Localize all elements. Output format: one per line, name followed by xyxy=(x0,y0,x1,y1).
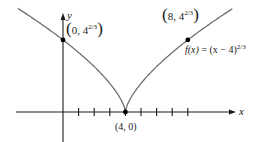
point-marker xyxy=(61,38,66,43)
function-lhs: f(x) xyxy=(185,44,199,55)
paren-close: ) xyxy=(97,19,103,38)
point-label-right: (8, 42/3) xyxy=(162,6,199,23)
point-exponent: 2/3 xyxy=(184,9,193,17)
y-axis-arrow-icon xyxy=(61,13,66,20)
marked-points xyxy=(61,38,191,115)
x-axis-label: x xyxy=(239,106,244,117)
function-curve xyxy=(18,8,233,112)
function-rhs: = (x − 4) xyxy=(199,44,237,55)
cusp-label: (4, 0) xyxy=(115,122,137,132)
point-marker xyxy=(123,110,128,115)
function-exponent: 2/3 xyxy=(237,43,246,51)
point-label-left: (0, 42/3) xyxy=(66,20,103,37)
function-label: f(x) = (x − 4)2/3 xyxy=(185,45,246,55)
point-marker xyxy=(185,38,190,43)
point-exponent: 2/3 xyxy=(88,23,97,31)
paren-close: ) xyxy=(193,5,199,24)
x-axis-arrow-icon xyxy=(229,110,236,115)
point-text: 8, 4 xyxy=(168,10,185,22)
point-text: 0, 4 xyxy=(72,24,89,36)
y-axis xyxy=(61,13,66,142)
